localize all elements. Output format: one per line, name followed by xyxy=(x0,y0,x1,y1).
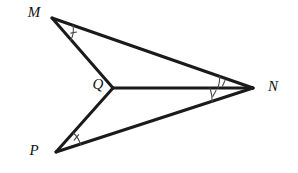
vertex-label-Q: Q xyxy=(93,76,104,92)
angle-tick-M-icon xyxy=(71,32,77,33)
geometry-diagram-canvas: M N P Q xyxy=(0,0,298,173)
angle-arc-qnp xyxy=(210,88,212,102)
vertex-label-P: P xyxy=(28,142,38,158)
angle-arc-mnq xyxy=(218,76,220,88)
angle-tick-qnp-icon xyxy=(213,91,216,97)
vertex-label-N: N xyxy=(267,78,279,94)
angle-tick-mnq-icon xyxy=(223,81,226,86)
geometry-figure: M N P Q xyxy=(0,0,298,173)
vertex-label-M: M xyxy=(27,4,42,20)
angle-arc-P xyxy=(74,133,81,145)
